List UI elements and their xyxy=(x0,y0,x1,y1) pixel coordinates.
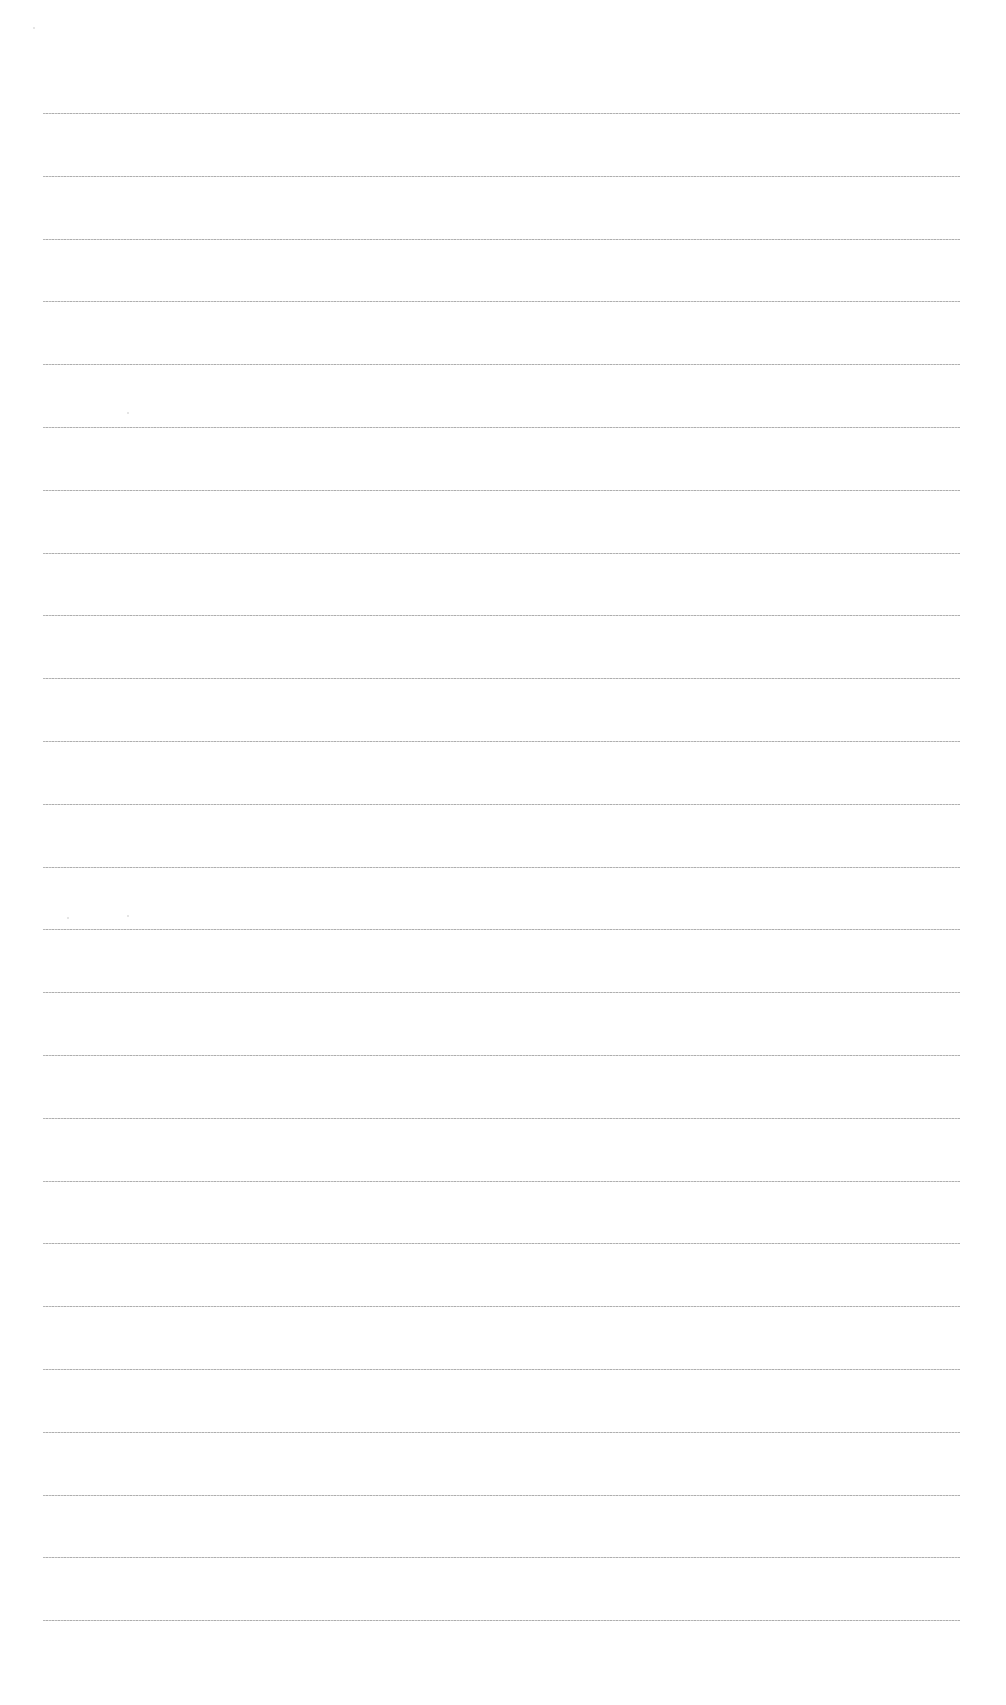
ruled-line xyxy=(43,427,960,428)
ruled-line xyxy=(43,1243,960,1244)
scan-speck xyxy=(67,917,69,919)
ruled-line xyxy=(43,1495,960,1496)
scan-speck xyxy=(33,27,35,29)
scan-speck xyxy=(127,915,129,917)
ruled-line xyxy=(43,929,960,930)
ruled-line xyxy=(43,741,960,742)
ruled-line xyxy=(43,176,960,177)
ruled-line xyxy=(43,239,960,240)
ruled-line xyxy=(43,867,960,868)
ruled-line xyxy=(43,1306,960,1307)
ruled-line xyxy=(43,553,960,554)
ruled-line xyxy=(43,301,960,302)
ruled-line xyxy=(43,678,960,679)
ruled-paper-page xyxy=(0,0,1006,1705)
ruled-line xyxy=(43,364,960,365)
ruled-line xyxy=(43,1118,960,1119)
ruled-line xyxy=(43,615,960,616)
ruled-line xyxy=(43,113,960,114)
ruled-line xyxy=(43,1181,960,1182)
scan-speck xyxy=(127,412,129,414)
ruled-line xyxy=(43,1557,960,1558)
ruled-line xyxy=(43,992,960,993)
ruled-line xyxy=(43,804,960,805)
ruled-line xyxy=(43,490,960,491)
ruled-line xyxy=(43,1432,960,1433)
ruled-line xyxy=(43,1620,960,1621)
ruled-line xyxy=(43,1369,960,1370)
ruled-line xyxy=(43,1055,960,1056)
